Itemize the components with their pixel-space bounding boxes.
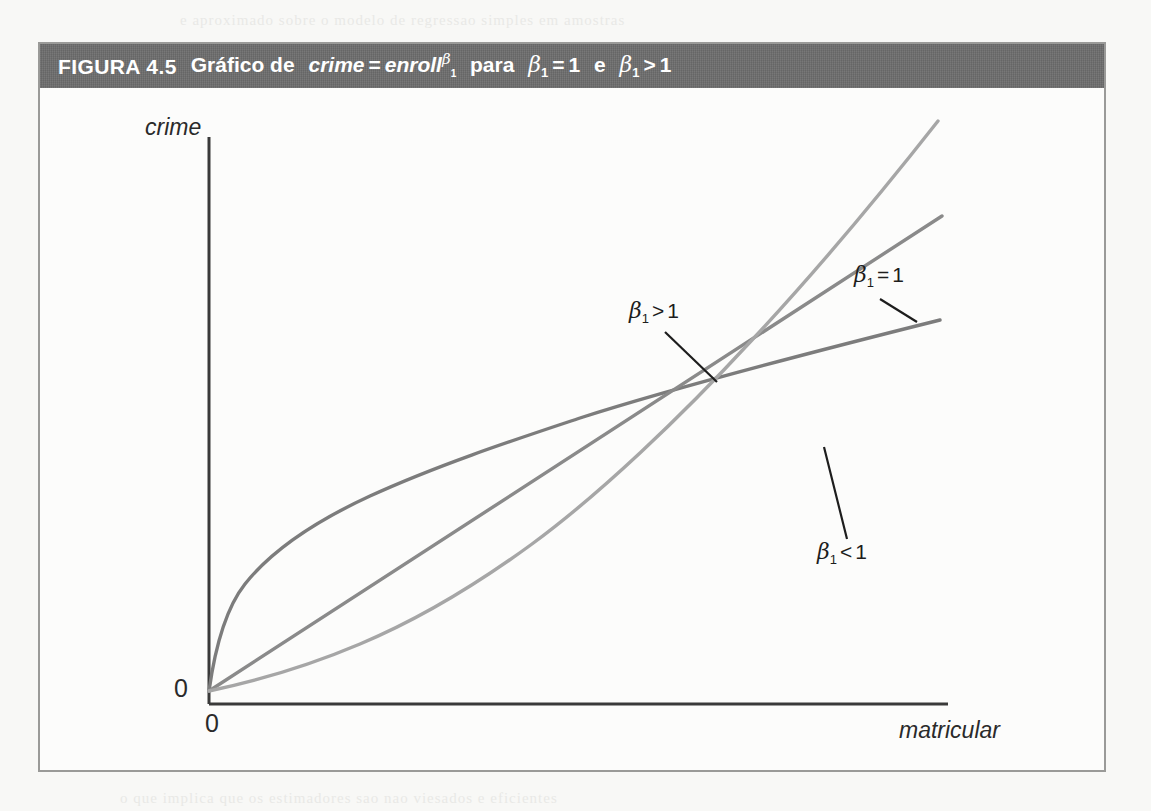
caption-text-part2: para: [470, 53, 514, 76]
figure-number-label: FIGURA 4.5: [58, 56, 177, 77]
annotation-beta-eq-1-symbol: β: [854, 262, 867, 287]
curve-beta-lt-1: [209, 320, 940, 691]
annotation-beta-lt-1-value: 1: [855, 540, 867, 563]
caption-beta-b: β: [620, 52, 633, 77]
y-axis-label: crime: [145, 114, 201, 141]
caption-val-b: 1: [660, 53, 672, 76]
annotation-beta-lt-1-sub: 1: [830, 552, 837, 567]
caption-exponent-beta: β: [442, 50, 451, 68]
caption-text-part1: Gráfico de: [191, 53, 295, 76]
annotation-beta-gt-1: β1>1: [629, 298, 679, 326]
plot-area: crime matricular 0 0 β1>1 β1=1 β1<1: [40, 88, 1104, 770]
x-axis-origin-tick: 0: [205, 709, 219, 738]
figure-title-bar: FIGURA 4.5 Gráfico de crime=enrollβ1 par…: [40, 44, 1104, 88]
caption-op-b: >: [639, 53, 659, 76]
caption-conj: e: [594, 53, 606, 76]
leader-line-beta-gt-1: [665, 332, 717, 382]
annotation-beta-gt-1-symbol: β: [629, 298, 642, 323]
leader-line-beta-lt-1: [824, 447, 847, 539]
x-axis-label: matricular: [899, 717, 1000, 744]
figure-caption: Gráfico de crime=enrollβ1 para β1=1 e β1…: [191, 52, 672, 79]
caption-beta-a: β: [528, 52, 541, 77]
figure-body: crime matricular 0 0 β1>1 β1=1 β1<1: [40, 88, 1104, 770]
caption-var-enroll: enroll: [385, 53, 442, 76]
annotation-beta-eq-1-sub: 1: [867, 275, 874, 290]
annotation-beta-lt-1-op: <: [837, 540, 855, 563]
caption-val-a: 1: [568, 53, 580, 76]
y-axis-origin-tick: 0: [174, 674, 188, 703]
annotation-beta-eq-1-value: 1: [892, 263, 904, 286]
annotation-beta-lt-1: β1<1: [817, 539, 867, 567]
annotation-beta-eq-1: β1=1: [854, 262, 904, 290]
annotation-beta-gt-1-op: >: [649, 299, 667, 322]
caption-op-a: =: [548, 53, 568, 76]
curve-beta-gt-1: [209, 121, 938, 691]
annotation-beta-eq-1-op: =: [874, 263, 892, 286]
caption-var-crime: crime: [308, 53, 364, 76]
annotation-beta-gt-1-value: 1: [667, 299, 679, 322]
figure-frame: FIGURA 4.5 Gráfico de crime=enrollβ1 par…: [38, 42, 1106, 772]
curve-beta-eq-1: [209, 216, 942, 691]
annotation-beta-gt-1-sub: 1: [642, 311, 649, 326]
figure-page: e aproximado sobre o modelo de regressao…: [0, 0, 1151, 811]
bleed-line: o que implica que os estimadores sao nao…: [120, 790, 558, 807]
caption-equals: =: [365, 53, 385, 76]
annotation-beta-lt-1-symbol: β: [817, 539, 830, 564]
leader-line-beta-eq-1: [880, 299, 917, 322]
plot-svg: [40, 88, 1104, 772]
bleed-line: e aproximado sobre o modelo de regressao…: [180, 12, 625, 29]
